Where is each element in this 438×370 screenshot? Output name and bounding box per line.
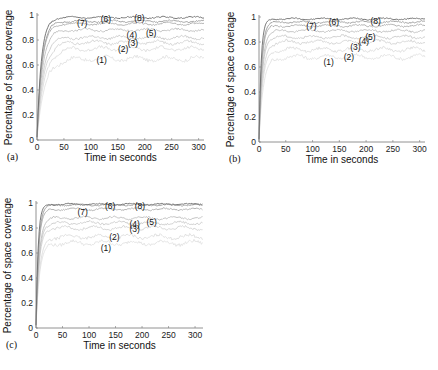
x-tick-label: 100 bbox=[82, 330, 96, 340]
y-tick-label: 0.2 bbox=[21, 298, 33, 308]
series-line bbox=[36, 208, 203, 326]
figure-canvas: 05010015020025030000.20.40.60.81Time in … bbox=[0, 0, 438, 370]
y-tick-label: 0.8 bbox=[22, 35, 34, 45]
series-label: (2) bbox=[109, 232, 120, 242]
x-tick-label: 200 bbox=[135, 330, 149, 340]
series-label: (7) bbox=[306, 21, 317, 31]
x-tick-label: 300 bbox=[188, 330, 202, 340]
chart-panel-a: 05010015020025030000.20.40.60.81Time in … bbox=[3, 9, 206, 163]
y-tick-label: 1 bbox=[251, 12, 256, 22]
series-line bbox=[259, 54, 425, 140]
series-line bbox=[37, 16, 204, 137]
y-tick-label: 1 bbox=[29, 10, 34, 20]
x-tick-label: 150 bbox=[332, 144, 346, 154]
x-tick-label: 100 bbox=[84, 142, 98, 152]
panel-label: (a) bbox=[7, 151, 18, 163]
x-axis-label: Time in seconds bbox=[83, 340, 155, 351]
x-tick-label: 50 bbox=[59, 142, 69, 152]
y-axis-label: Percentage of space coverage bbox=[2, 197, 13, 333]
y-tick-label: 1 bbox=[28, 198, 33, 208]
series-label: (5) bbox=[365, 32, 376, 42]
series-label: (4) bbox=[129, 219, 140, 229]
y-tick-label: 0.6 bbox=[244, 62, 256, 72]
series-label: (5) bbox=[146, 28, 157, 38]
chart-panel-c: 05010015020025030000.20.40.60.81Time in … bbox=[2, 197, 203, 351]
series-line bbox=[37, 22, 204, 137]
y-tick-label: 0 bbox=[29, 135, 34, 145]
panel-label: (b) bbox=[229, 153, 241, 165]
series-label: (2) bbox=[344, 52, 355, 62]
series-line bbox=[259, 21, 425, 140]
series-label: (8) bbox=[134, 13, 145, 23]
series-line bbox=[259, 39, 425, 139]
x-tick-label: 250 bbox=[161, 330, 175, 340]
y-tick-label: 0.8 bbox=[244, 37, 256, 47]
x-tick-label: 150 bbox=[111, 142, 125, 152]
series-line bbox=[36, 234, 203, 326]
series-label: (1) bbox=[96, 55, 107, 65]
y-tick-label: 0 bbox=[28, 323, 33, 333]
x-tick-label: 250 bbox=[165, 142, 179, 152]
x-tick-label: 0 bbox=[35, 142, 40, 152]
x-tick-label: 0 bbox=[257, 144, 262, 154]
panel-label: (c) bbox=[6, 339, 17, 351]
y-tick-label: 0.2 bbox=[22, 110, 34, 120]
series-label: (1) bbox=[323, 57, 334, 67]
y-tick-label: 0.6 bbox=[22, 60, 34, 70]
series-label: (6) bbox=[105, 201, 116, 211]
x-tick-label: 100 bbox=[305, 144, 319, 154]
y-tick-label: 0.4 bbox=[21, 273, 33, 283]
series-label: (8) bbox=[135, 201, 146, 211]
series-label: (7) bbox=[77, 207, 88, 217]
y-tick-label: 0.8 bbox=[21, 223, 33, 233]
x-tick-label: 200 bbox=[138, 142, 152, 152]
x-tick-label: 250 bbox=[386, 144, 400, 154]
x-axis-label: Time in seconds bbox=[84, 152, 156, 163]
chart-panel-b: 05010015020025030000.20.40.60.81Time in … bbox=[225, 11, 427, 165]
y-axis-label: Percentage of space coverage bbox=[225, 11, 236, 147]
series-label: (7) bbox=[77, 18, 88, 28]
x-tick-label: 0 bbox=[34, 330, 39, 340]
series-line bbox=[37, 55, 204, 138]
series-label: (6) bbox=[101, 14, 112, 24]
y-tick-label: 0.4 bbox=[22, 85, 34, 95]
x-tick-label: 200 bbox=[359, 144, 373, 154]
series-label: (8) bbox=[371, 16, 382, 26]
series-label: (1) bbox=[101, 243, 112, 253]
series-line bbox=[259, 29, 425, 140]
series-label: (4) bbox=[127, 30, 138, 40]
x-tick-label: 50 bbox=[281, 144, 291, 154]
y-tick-label: 0.2 bbox=[244, 112, 256, 122]
series-line bbox=[36, 239, 203, 325]
x-axis-label: Time in seconds bbox=[306, 154, 378, 165]
x-tick-label: 300 bbox=[192, 142, 206, 152]
y-tick-label: 0.6 bbox=[21, 248, 33, 258]
y-axis-label: Percentage of space coverage bbox=[3, 9, 14, 145]
series-label: (6) bbox=[329, 17, 340, 27]
x-tick-label: 50 bbox=[58, 330, 68, 340]
series-line bbox=[37, 40, 204, 138]
x-tick-label: 300 bbox=[413, 144, 427, 154]
series-label: (5) bbox=[146, 217, 157, 227]
x-tick-label: 150 bbox=[108, 330, 122, 340]
y-tick-label: 0.4 bbox=[244, 87, 256, 97]
y-tick-label: 0 bbox=[251, 137, 256, 147]
